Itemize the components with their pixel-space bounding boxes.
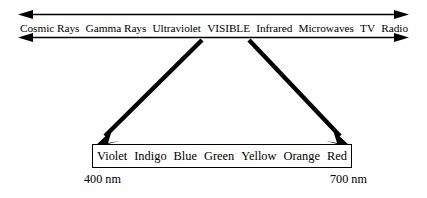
wavelength-label-min: 400 nm xyxy=(84,172,121,186)
left-arrowhead-icon-top xyxy=(18,10,33,19)
spectrum-band-infrared: Infrared xyxy=(256,22,292,35)
visible-light-color-labels: Violet Indigo Blue Green Yellow Orange R… xyxy=(97,145,347,167)
visible-light-box: Violet Indigo Blue Green Yellow Orange R… xyxy=(92,144,352,168)
visible-color-violet: Violet xyxy=(97,149,127,163)
spectrum-band-visible: VISIBLE xyxy=(207,22,250,35)
visible-color-orange: Orange xyxy=(284,149,320,163)
electromagnetic-spectrum-figure: Cosmic Rays Gamma Rays Ultraviolet VISIB… xyxy=(0,0,427,198)
callout-arrow-left-icon xyxy=(93,40,202,148)
visible-color-indigo: Indigo xyxy=(134,149,166,163)
spectrum-band-tv: TV xyxy=(360,22,375,35)
spectrum-band-ultraviolet: Ultraviolet xyxy=(153,22,201,35)
visible-color-blue: Blue xyxy=(174,149,197,163)
visible-color-red: Red xyxy=(327,149,347,163)
visible-color-yellow: Yellow xyxy=(241,149,276,163)
spectrum-band-gamma-rays: Gamma Rays xyxy=(86,22,147,35)
spectrum-band-microwaves: Microwaves xyxy=(299,22,354,35)
spectrum-band-cosmic-rays: Cosmic Rays xyxy=(20,22,79,35)
spectrum-band-labels: Cosmic Rays Gamma Rays Ultraviolet VISIB… xyxy=(20,20,408,36)
visible-color-green: Green xyxy=(204,149,234,163)
callout-arrow-right-icon xyxy=(249,40,352,148)
spectrum-band-radio: Radio xyxy=(381,22,408,35)
right-arrowhead-icon-top xyxy=(394,10,409,19)
wavelength-label-max: 700 nm xyxy=(330,172,367,186)
